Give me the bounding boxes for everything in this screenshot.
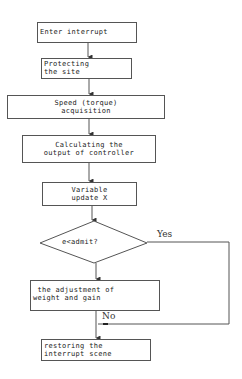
variable-update-box: Variable update X xyxy=(42,182,137,206)
yes-label: Yes xyxy=(157,229,172,239)
adjust-weight-gain-box: the adjustment of weight and gain xyxy=(30,280,160,311)
restore-interrupt-box: restoring the interrupt scene xyxy=(41,339,151,361)
protecting-site-box: Protecting the site xyxy=(41,58,132,79)
enter-interrupt-box: Enter interrupt xyxy=(37,22,137,43)
decision-condition-text: e<admit? xyxy=(62,238,98,246)
speed-acquisition-box: Speed (torque) acquisition xyxy=(7,95,165,119)
calculate-output-box: Calculating the output of controller xyxy=(22,135,156,163)
no-label: No xyxy=(102,311,115,321)
